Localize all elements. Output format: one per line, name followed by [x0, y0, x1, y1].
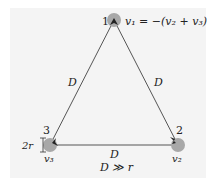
node-2-label: 2 — [176, 124, 183, 137]
node-3-label: 3 — [43, 124, 50, 137]
radius-label: 2r — [21, 140, 34, 151]
edge-1-3-label: D — [67, 76, 77, 89]
node-2-velocity: v₂ — [172, 153, 182, 164]
edge-1-3 — [50, 20, 114, 145]
node-1-velocity: v₁ = −(v₂ + v₃) — [125, 15, 207, 28]
triangle-diagram: 1 v₁ = −(v₂ + v₃) 2 v₂ 3 v₃ D D D 2r D ≫… — [0, 0, 213, 186]
edge-3-2-label: D — [109, 148, 119, 161]
node-1-label: 1 — [102, 15, 109, 28]
node-3-velocity: v₃ — [44, 153, 54, 164]
condition-label: D ≫ r — [99, 161, 134, 174]
edge-1-2 — [114, 20, 178, 145]
edge-1-2-label: D — [153, 76, 163, 89]
